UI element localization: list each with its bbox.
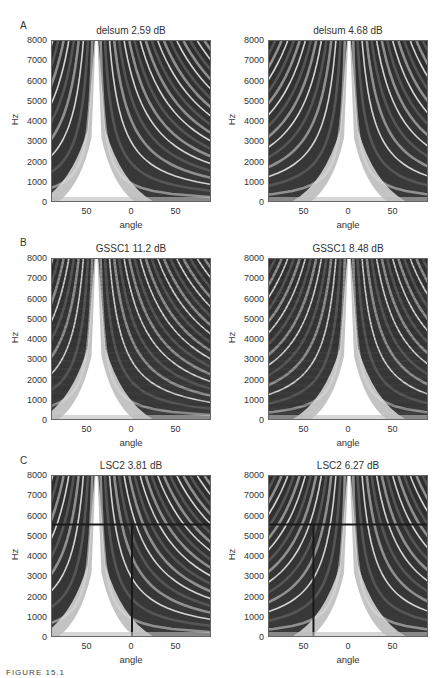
y-tick-label: 6000: [234, 512, 264, 521]
x-tick-label: 50: [72, 641, 102, 651]
plot-title: GSSC1 11.2 dB: [51, 243, 211, 254]
y-tick-label: 3000: [17, 137, 47, 146]
x-tick-label: 50: [377, 206, 407, 216]
y-tick-label: 0: [234, 416, 264, 425]
x-axis-label: angle: [268, 437, 428, 448]
y-tick-label: 6000: [234, 295, 264, 304]
y-tick-label: 2000: [234, 593, 264, 602]
y-tick-label: 8000: [234, 254, 264, 263]
y-tick-label: 3000: [17, 355, 47, 364]
y-tick-label: 2000: [234, 158, 264, 167]
y-tick-label: 2000: [17, 593, 47, 602]
y-tick-label: 8000: [234, 471, 264, 480]
y-axis-label: Hz: [226, 328, 237, 348]
x-tick-label: 50: [377, 424, 407, 434]
y-tick-label: 5000: [234, 315, 264, 324]
y-tick-label: 1000: [17, 613, 47, 622]
x-tick-label: 0: [116, 641, 146, 651]
beampattern-plot: GSSC1 8.48 dB 80007000600050004000300020…: [268, 258, 428, 420]
beampattern-plot: delsum 2.59 dB 8000700060005000400030002…: [51, 40, 211, 202]
x-axis-label: angle: [51, 437, 211, 448]
y-axis-label: Hz: [226, 545, 237, 565]
y-axis-label: Hz: [9, 328, 20, 348]
panel-letter-b: B: [20, 237, 27, 248]
y-tick-label: 1000: [234, 178, 264, 187]
y-tick-label: 7000: [234, 274, 264, 283]
y-tick-label: 4000: [17, 335, 47, 344]
y-axis-label: Hz: [226, 110, 237, 130]
y-tick-label: 2000: [17, 158, 47, 167]
y-tick-label: 0: [17, 416, 47, 425]
heatmap-area: [51, 258, 211, 420]
beampattern-plot: GSSC1 11.2 dB 80007000600050004000300020…: [51, 258, 211, 420]
y-tick-label: 4000: [234, 335, 264, 344]
y-tick-label: 4000: [17, 552, 47, 561]
y-tick-label: 0: [234, 633, 264, 642]
x-tick-label: 50: [160, 641, 190, 651]
x-tick-label: 50: [72, 424, 102, 434]
y-tick-label: 8000: [17, 36, 47, 45]
y-tick-label: 8000: [17, 254, 47, 263]
x-tick-label: 50: [160, 206, 190, 216]
y-tick-label: 6000: [17, 512, 47, 521]
y-tick-label: 3000: [234, 137, 264, 146]
y-tick-label: 8000: [17, 471, 47, 480]
x-axis-label: angle: [51, 219, 211, 230]
figure-caption: FIGURE 15.1: [6, 668, 65, 677]
y-tick-label: 6000: [17, 77, 47, 86]
panel-letter-a: A: [20, 20, 27, 31]
y-tick-label: 4000: [17, 117, 47, 126]
y-tick-label: 0: [17, 198, 47, 207]
heatmap-area: [268, 40, 428, 202]
x-tick-label: 0: [116, 206, 146, 216]
y-tick-label: 3000: [17, 572, 47, 581]
beampattern-plot: LSC2 3.81 dB 800070006000500040003000200…: [51, 475, 211, 637]
y-tick-label: 4000: [234, 117, 264, 126]
x-tick-label: 50: [289, 641, 319, 651]
y-tick-label: 5000: [17, 97, 47, 106]
y-tick-label: 5000: [234, 532, 264, 541]
y-tick-label: 1000: [234, 396, 264, 405]
y-axis-label: Hz: [9, 110, 20, 130]
y-tick-label: 0: [234, 198, 264, 207]
y-tick-label: 7000: [234, 491, 264, 500]
y-tick-label: 2000: [17, 376, 47, 385]
y-tick-label: 2000: [234, 376, 264, 385]
y-tick-label: 5000: [234, 97, 264, 106]
y-tick-label: 7000: [17, 56, 47, 65]
y-tick-label: 6000: [17, 295, 47, 304]
y-tick-label: 3000: [234, 572, 264, 581]
y-tick-label: 7000: [234, 56, 264, 65]
heatmap-area: [268, 258, 428, 420]
x-tick-label: 0: [333, 641, 363, 651]
y-tick-label: 4000: [234, 552, 264, 561]
plot-title: delsum 4.68 dB: [268, 25, 428, 36]
x-tick-label: 50: [377, 641, 407, 651]
plot-title: GSSC1 8.48 dB: [268, 243, 428, 254]
x-tick-label: 50: [289, 424, 319, 434]
beampattern-plot: LSC2 6.27 dB 800070006000500040003000200…: [268, 475, 428, 637]
y-tick-label: 0: [17, 633, 47, 642]
x-axis-label: angle: [51, 654, 211, 665]
heatmap-area: [51, 40, 211, 202]
x-tick-label: 50: [72, 206, 102, 216]
x-tick-label: 0: [333, 206, 363, 216]
y-tick-label: 8000: [234, 36, 264, 45]
y-tick-label: 1000: [17, 178, 47, 187]
x-tick-label: 0: [116, 424, 146, 434]
y-tick-label: 3000: [234, 355, 264, 364]
y-tick-label: 5000: [17, 532, 47, 541]
y-tick-label: 1000: [17, 396, 47, 405]
x-tick-label: 0: [333, 424, 363, 434]
y-tick-label: 7000: [17, 274, 47, 283]
heatmap-area: [51, 475, 211, 637]
plot-title: LSC2 6.27 dB: [268, 460, 428, 471]
y-tick-label: 1000: [234, 613, 264, 622]
x-axis-label: angle: [268, 654, 428, 665]
plot-title: LSC2 3.81 dB: [51, 460, 211, 471]
plot-title: delsum 2.59 dB: [51, 25, 211, 36]
y-axis-label: Hz: [9, 545, 20, 565]
heatmap-area: [268, 475, 428, 637]
x-tick-label: 50: [160, 424, 190, 434]
y-tick-label: 6000: [234, 77, 264, 86]
